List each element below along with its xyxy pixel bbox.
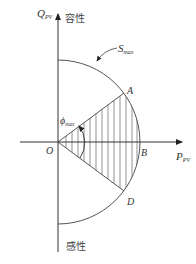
smax-leader bbox=[97, 48, 117, 61]
inductive-label: 感性 bbox=[66, 240, 86, 252]
x-axis-label: PPV bbox=[175, 150, 191, 163]
phi-max-label: ϕmax bbox=[60, 115, 75, 127]
origin-label: O bbox=[46, 145, 53, 156]
point-B-label: B bbox=[141, 147, 147, 158]
point-D-label: D bbox=[126, 196, 135, 207]
point-A-label: A bbox=[126, 85, 134, 96]
capacitive-label: 容性 bbox=[65, 12, 85, 24]
y-axis-label: QPV bbox=[37, 7, 54, 20]
capability-diagram: QPV 容性 感性 Smax ϕmax A B D O PPV bbox=[0, 0, 196, 264]
smax-label: Smax bbox=[118, 42, 134, 55]
